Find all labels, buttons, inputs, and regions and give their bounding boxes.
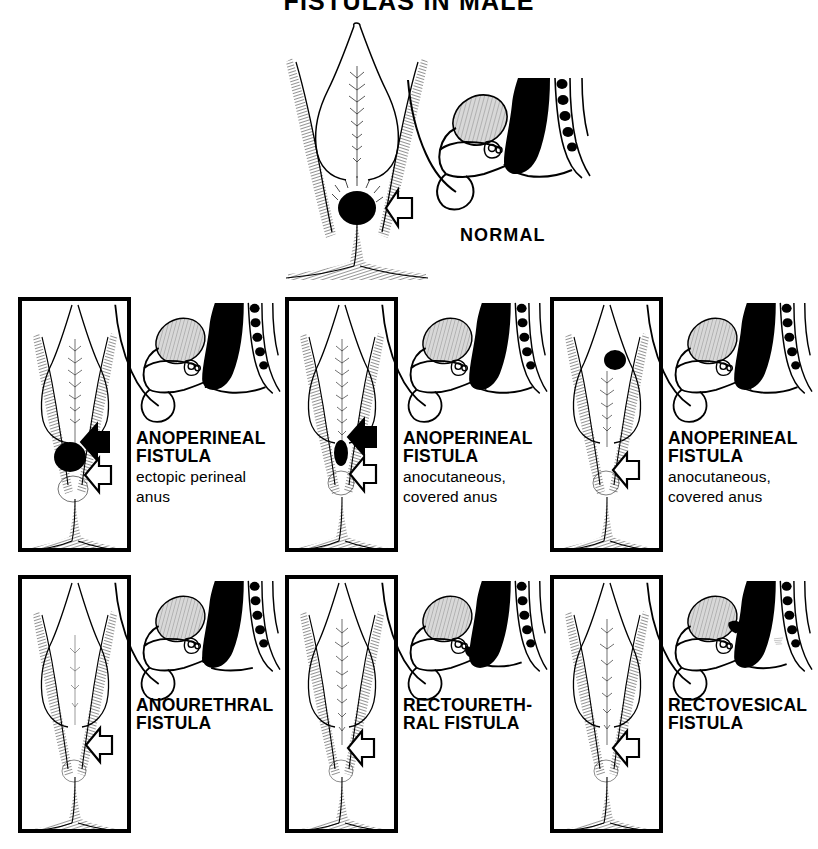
panel-title-line2: FISTULA <box>668 715 807 733</box>
label-rectovesical: RECTOVESICAL FISTULA <box>668 697 807 733</box>
panel-subtitle-line1: anocutaneous, <box>668 467 798 486</box>
normal-label-text: NORMAL <box>460 226 546 244</box>
normal-sagittal-diagram <box>400 78 590 213</box>
markers-anoperineal-anocutaneous-1 <box>340 425 400 505</box>
rectum <box>202 303 244 390</box>
markers-rectovesical <box>605 733 655 778</box>
vertebrae <box>557 79 578 152</box>
panel-title-line2: FISTULA <box>668 448 798 466</box>
markers-anoperineal-ectopic <box>75 430 135 505</box>
panel-title-line2: FISTULA <box>136 448 266 466</box>
solid-arrow-fistula <box>81 424 109 460</box>
open-arrow-anus <box>86 728 112 762</box>
bladder <box>148 309 214 372</box>
label-anoperineal-anocutaneous-2: ANOPERINEAL FISTULA anocutaneous, covere… <box>668 430 798 506</box>
sagittal-diagram-anoperineal-anocutaneous-1 <box>375 299 547 429</box>
anus-opening <box>338 191 376 225</box>
panel-title-line2: RAL FISTULA <box>403 715 532 733</box>
panel-subtitle-line1: ectopic perineal <box>136 467 266 486</box>
markers-rectourethral <box>340 733 390 778</box>
open-arrow-anus <box>85 458 111 492</box>
panel-title-line2: FISTULA <box>136 715 273 733</box>
label-anoperineal-anocutaneous-1: ANOPERINEAL FISTULA anocutaneous, covere… <box>403 430 533 506</box>
normal-label: NORMAL <box>460 226 546 244</box>
panel-title-line2: FISTULA <box>403 448 533 466</box>
open-arrow-anus <box>613 731 639 765</box>
fistula-opening <box>604 350 626 370</box>
figure-plate: FISTULAS IN MALE <box>0 0 818 849</box>
panel-subtitle-line2: anus <box>136 487 266 506</box>
panel-subtitle-line2: covered anus <box>668 487 798 506</box>
rectum <box>504 78 550 174</box>
panel-subtitle-line2: covered anus <box>403 487 533 506</box>
markers-anoperineal-anocutaneous-2 <box>605 455 655 500</box>
vertebrae <box>250 304 269 370</box>
label-rectourethral: RECTOURETH- RAL FISTULA <box>403 697 532 733</box>
open-arrow-anus <box>613 453 639 487</box>
artist-signature <box>774 638 783 644</box>
markers-anourethral <box>78 730 128 775</box>
sagittal-diagram-rectourethral <box>375 577 547 707</box>
label-anoperineal-ectopic: ANOPERINEAL FISTULA ectopic perineal anu… <box>136 430 266 506</box>
page-title: FISTULAS IN MALE <box>0 0 818 16</box>
panel-subtitle-line1: anocutaneous, <box>403 467 533 486</box>
sagittal-diagram-rectovesical <box>640 577 812 707</box>
sagittal-diagram-anoperineal-anocutaneous-2 <box>640 299 812 429</box>
bladder <box>444 85 516 155</box>
label-anourethral: ANOURETHRAL FISTULA <box>136 697 273 733</box>
sagittal-diagram-anoperineal-ectopic <box>108 299 280 429</box>
thigh-hair-left <box>286 58 336 238</box>
open-arrow-anus <box>348 731 374 765</box>
open-arrow-anus <box>350 457 376 491</box>
sagittal-diagram-anourethral <box>108 577 280 707</box>
solid-arrow-fistula <box>348 419 376 455</box>
